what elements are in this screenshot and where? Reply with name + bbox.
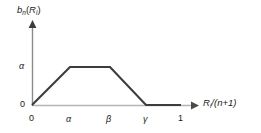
y-tick-label-zero: 0	[20, 100, 25, 109]
x-axis-arrowhead	[191, 102, 199, 110]
y-axis-title-arg: R	[29, 4, 36, 15]
membership-function-curve	[32, 67, 181, 105]
x-tick-label-gamma: γ	[143, 115, 148, 124]
x-tick-label-beta: β	[106, 115, 111, 124]
y-axis	[29, 20, 37, 106]
x-tick-label-alpha: α	[66, 115, 71, 124]
x-tick-label-1: 1	[178, 114, 183, 123]
y-axis-title-paren-close: )	[37, 4, 40, 15]
x-axis-title-rest: /(n+1)	[211, 97, 236, 108]
y-axis-title: bn(Ri)	[17, 5, 41, 15]
figure-canvas: bn(Ri) Ri/(n+1) α 0 0 α β γ 1	[0, 0, 261, 133]
y-axis-arrowhead	[29, 20, 37, 28]
y-tick-label-alpha: α	[19, 62, 24, 71]
x-tick-label-0: 0	[29, 114, 34, 123]
x-axis-title: Ri/(n+1)	[203, 98, 236, 108]
y-axis-title-subscript: n	[22, 9, 26, 16]
x-axis-title-base: R	[203, 97, 210, 108]
plot-svg	[0, 0, 261, 133]
